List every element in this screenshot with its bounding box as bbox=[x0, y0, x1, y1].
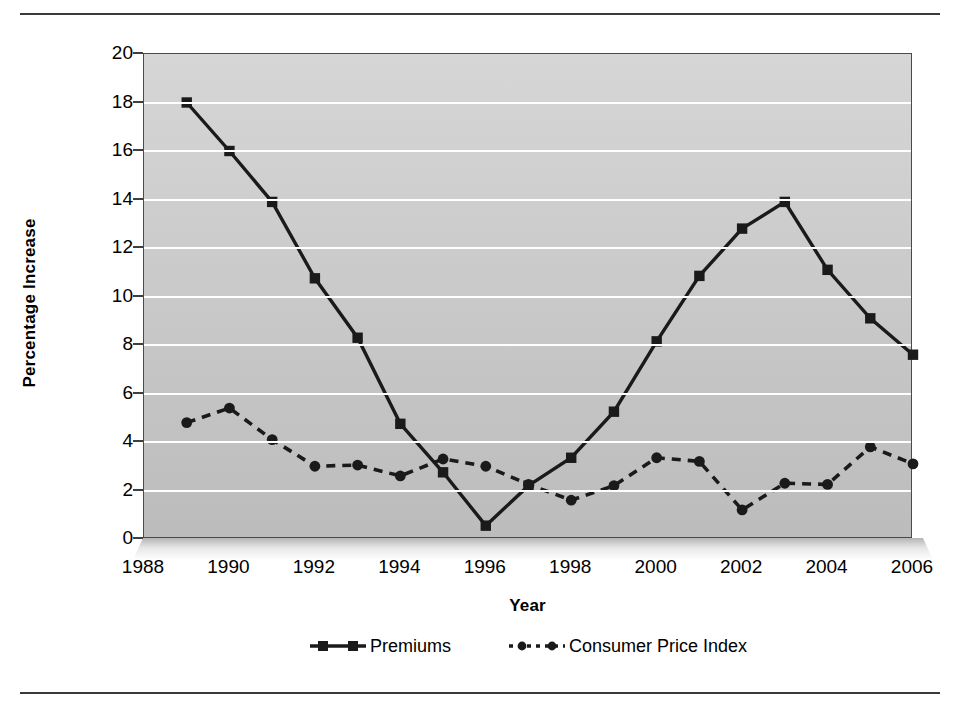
data-point-marker bbox=[352, 333, 362, 343]
x-tick-label: 1990 bbox=[188, 556, 268, 578]
legend-label: Consumer Price Index bbox=[568, 636, 747, 656]
x-tick-label: 1996 bbox=[445, 556, 525, 578]
data-point-marker bbox=[310, 273, 320, 283]
y-tick-mark bbox=[133, 343, 143, 345]
x-axis-title: Year bbox=[143, 596, 912, 616]
y-tick-label: 10 bbox=[95, 286, 133, 305]
y-tick-label: 18 bbox=[95, 92, 133, 111]
x-tick-label: 1994 bbox=[359, 556, 439, 578]
data-point-marker bbox=[908, 458, 919, 469]
bottom-divider-rule bbox=[20, 692, 940, 694]
y-tick-label: 16 bbox=[95, 140, 133, 159]
legend-solid-line-icon bbox=[308, 637, 368, 655]
series-1 bbox=[182, 97, 919, 531]
chart-legend: PremiumsConsumer Price Index bbox=[143, 631, 912, 661]
data-point-marker bbox=[352, 460, 363, 471]
data-point-marker bbox=[566, 453, 576, 463]
legend-label: Premiums bbox=[369, 636, 451, 656]
data-point-marker bbox=[395, 471, 406, 482]
data-point-marker bbox=[908, 350, 918, 360]
gridline bbox=[144, 199, 911, 201]
data-point-marker bbox=[267, 434, 278, 445]
y-tick-label: 20 bbox=[95, 43, 133, 62]
y-axis-title: Percentage Increase bbox=[17, 168, 43, 438]
y-tick-label: 0 bbox=[95, 528, 133, 547]
legend-dashed-line-icon bbox=[507, 637, 567, 655]
y-tick-mark bbox=[133, 246, 143, 248]
gridline bbox=[144, 150, 911, 152]
plot-area bbox=[143, 53, 912, 538]
data-point-marker bbox=[181, 417, 192, 428]
data-point-marker bbox=[737, 223, 747, 233]
gridline bbox=[144, 296, 911, 298]
y-tick-label: 2 bbox=[95, 480, 133, 499]
data-point-marker bbox=[865, 441, 876, 452]
data-point-marker bbox=[822, 479, 833, 490]
legend-item-2[interactable]: Consumer Price Index bbox=[507, 636, 747, 656]
data-point-marker bbox=[609, 406, 619, 416]
chart-figure: Percentage Increase 20181614121086420 19… bbox=[0, 0, 956, 710]
data-point-marker bbox=[651, 452, 662, 463]
y-axis-tick-labels: 20181614121086420 bbox=[86, 53, 133, 538]
x-tick-label: 2006 bbox=[872, 556, 952, 578]
y-tick-mark bbox=[133, 198, 143, 200]
gridline bbox=[144, 490, 911, 492]
x-tick-label: 2000 bbox=[616, 556, 696, 578]
x-axis-tick-labels: 1988199019921994199619982000200220042006 bbox=[143, 556, 912, 582]
series-line bbox=[187, 103, 913, 526]
data-point-marker bbox=[224, 403, 235, 414]
y-tick-mark bbox=[133, 489, 143, 491]
x-tick-label: 1988 bbox=[103, 556, 183, 578]
x-tick-label: 2002 bbox=[701, 556, 781, 578]
y-tick-mark bbox=[133, 392, 143, 394]
data-point-marker bbox=[822, 265, 832, 275]
y-tick-label: 4 bbox=[95, 431, 133, 450]
y-tick-label: 8 bbox=[95, 334, 133, 353]
x-tick-label: 1998 bbox=[530, 556, 610, 578]
y-tick-mark bbox=[133, 295, 143, 297]
data-point-marker bbox=[438, 454, 449, 465]
data-point-marker bbox=[438, 467, 448, 477]
data-point-marker bbox=[694, 271, 704, 281]
data-point-marker bbox=[865, 313, 875, 323]
data-point-marker bbox=[737, 505, 748, 516]
y-tick-mark bbox=[133, 101, 143, 103]
y-tick-mark bbox=[133, 52, 143, 54]
series-line bbox=[187, 408, 913, 510]
data-point-marker bbox=[566, 495, 577, 506]
gridline bbox=[144, 344, 911, 346]
gridline bbox=[144, 441, 911, 443]
data-point-marker bbox=[395, 419, 405, 429]
data-point-marker bbox=[481, 520, 491, 530]
gridline bbox=[144, 393, 911, 395]
series-2 bbox=[181, 403, 918, 516]
data-point-marker bbox=[309, 461, 320, 472]
data-point-marker bbox=[523, 479, 534, 490]
data-point-marker bbox=[480, 461, 491, 472]
top-divider-rule bbox=[20, 13, 940, 15]
y-tick-label: 14 bbox=[95, 189, 133, 208]
y-tick-mark bbox=[133, 440, 143, 442]
gridline bbox=[144, 247, 911, 249]
y-tick-mark bbox=[133, 537, 143, 539]
y-tick-label: 12 bbox=[95, 237, 133, 256]
gridline bbox=[144, 102, 911, 104]
data-point-marker bbox=[779, 478, 790, 489]
y-tick-label: 6 bbox=[95, 383, 133, 402]
data-point-marker bbox=[694, 456, 705, 467]
y-tick-mark bbox=[133, 149, 143, 151]
x-tick-label: 2004 bbox=[787, 556, 867, 578]
legend-item-1[interactable]: Premiums bbox=[308, 636, 451, 656]
x-tick-label: 1992 bbox=[274, 556, 354, 578]
